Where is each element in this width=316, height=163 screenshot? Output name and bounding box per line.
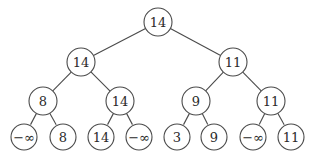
tree-node: 11 <box>278 124 304 150</box>
tree-node: 8 <box>50 124 76 150</box>
tree-edge <box>202 114 207 125</box>
tree-edge <box>53 72 71 91</box>
node-label: 9 <box>192 94 200 109</box>
node-label: −∞ <box>128 130 150 145</box>
tree-node: 11 <box>219 48 247 76</box>
tree-edge <box>91 72 110 91</box>
tree-edge <box>184 113 190 124</box>
node-label: −∞ <box>242 130 264 145</box>
tree-node: 9 <box>201 124 227 150</box>
node-label: 3 <box>173 130 181 145</box>
node-label: 14 <box>73 55 90 70</box>
node-label: 11 <box>283 130 300 145</box>
node-label: 14 <box>112 94 129 109</box>
tree-edge <box>50 113 56 125</box>
tree-node: 14 <box>144 8 172 36</box>
node-label: 8 <box>39 94 47 109</box>
tree-nodes: 141411814911−∞814−∞39−∞11 <box>11 8 304 150</box>
tournament-tree-diagram: 141411814911−∞814−∞39−∞11 <box>0 0 316 163</box>
node-label: 9 <box>210 130 218 145</box>
node-label: −∞ <box>13 130 35 145</box>
tree-node: 14 <box>67 48 95 76</box>
tree-node: 14 <box>88 124 114 150</box>
tree-node: −∞ <box>126 124 152 150</box>
node-label: 11 <box>263 94 280 109</box>
tree-node: 3 <box>164 124 190 150</box>
tree-edge <box>31 113 37 124</box>
tree-edge <box>127 113 133 124</box>
tree-edge <box>278 113 284 125</box>
node-label: 14 <box>150 15 167 30</box>
tree-edge <box>108 113 114 124</box>
tree-edge <box>243 72 261 91</box>
tree-node: 8 <box>29 87 57 115</box>
tree-node: −∞ <box>11 124 37 150</box>
tree-edge <box>170 29 220 56</box>
tree-svg: 141411814911−∞814−∞39−∞11 <box>0 0 316 163</box>
tree-edge <box>206 72 224 91</box>
node-label: 14 <box>93 130 110 145</box>
tree-node: 9 <box>182 87 210 115</box>
node-label: 11 <box>225 55 242 70</box>
tree-node: 11 <box>257 87 285 115</box>
tree-edges <box>31 28 285 124</box>
tree-node: 14 <box>106 87 134 115</box>
tree-edge <box>93 28 145 55</box>
node-label: 8 <box>59 130 67 145</box>
tree-edge <box>259 114 264 125</box>
tree-node: −∞ <box>240 124 266 150</box>
